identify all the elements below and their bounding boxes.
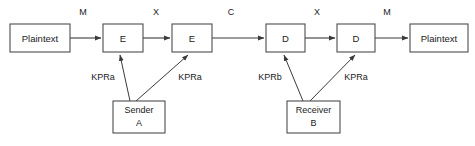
key-sender-right: KPRa <box>178 72 202 82</box>
plaintext-out-label: Plaintext <box>421 33 458 44</box>
keyarrow-sender-to-e1 <box>120 55 130 101</box>
sender-label-line1: Sender <box>124 105 153 115</box>
signal-label-group: M X C X M <box>79 7 391 17</box>
keyarrow-receiver-to-d1 <box>284 55 303 101</box>
node-plaintext-out: Plaintext <box>410 24 468 52</box>
key-label-group: KPRa KPRa KPRb KPRa <box>91 72 368 82</box>
receiver-label-line2: B <box>310 118 316 128</box>
decrypt-1-label: D <box>282 33 289 44</box>
signal-c: C <box>228 7 235 17</box>
node-sender: Sender A <box>113 101 165 133</box>
decrypt-2-label: D <box>353 33 360 44</box>
receiver-label-line1: Receiver <box>296 105 332 115</box>
signal-m-2: M <box>383 7 391 17</box>
node-decrypt-2: D <box>337 24 375 52</box>
encrypt-1-label: E <box>120 33 126 44</box>
encrypt-2-label: E <box>189 33 195 44</box>
signal-m-1: M <box>79 7 87 17</box>
encryption-flow-diagram: Plaintext E E D D Plaintext Sender A <box>0 0 475 146</box>
diagram-canvas: Plaintext E E D D Plaintext Sender A <box>0 0 475 146</box>
node-receiver: Receiver B <box>287 101 340 133</box>
signal-x-1: X <box>153 7 159 17</box>
key-receiver-left: KPRb <box>258 72 282 82</box>
signal-x-2: X <box>314 7 320 17</box>
key-receiver-right: KPRa <box>344 72 368 82</box>
key-arrow-group <box>120 55 355 101</box>
node-decrypt-1: D <box>266 24 305 52</box>
plaintext-in-label: Plaintext <box>22 33 59 44</box>
node-encrypt-1: E <box>103 24 143 52</box>
sender-label-line2: A <box>136 118 142 128</box>
node-encrypt-2: E <box>172 24 212 52</box>
node-plaintext-in: Plaintext <box>10 24 70 52</box>
key-sender-left: KPRa <box>91 72 115 82</box>
